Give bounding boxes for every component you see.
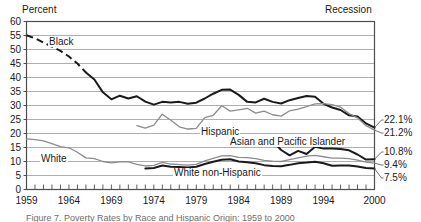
x-tick-label: 1979	[179, 196, 213, 206]
end-value-label: 21.2%	[384, 128, 412, 138]
x-tick-label: 1994	[307, 196, 341, 206]
y-axis-title: Percent	[22, 5, 56, 15]
y-tick-label: 60	[1, 17, 21, 27]
end-value-label: 10.8%	[384, 147, 412, 157]
end-value-label: 9.4%	[384, 160, 407, 170]
figure-caption: Figure 7. Poverty Rates by Race and Hisp…	[26, 213, 295, 222]
series-lines	[27, 35, 375, 168]
x-tick-label: 1974	[137, 196, 171, 206]
y-tick-label: 35	[1, 87, 21, 97]
y-tick-label: 10	[1, 157, 21, 167]
series-label-white: White	[40, 154, 68, 164]
x-axis-ticks	[27, 185, 375, 190]
x-tick-label: 1989	[264, 196, 298, 206]
poverty-rate-chart: Percent Recession 0510152025303540455055…	[0, 0, 421, 222]
y-tick-label: 20	[1, 129, 21, 139]
y-tick-label: 45	[1, 59, 21, 69]
x-tick-label: 1964	[52, 196, 86, 206]
y-tick-label: 50	[1, 45, 21, 55]
gridlines	[27, 36, 375, 176]
x-tick-label: 1969	[94, 196, 128, 206]
y-tick-label: 30	[1, 101, 21, 111]
x-tick-label: 2000	[358, 196, 392, 206]
plot-area	[0, 0, 421, 222]
series-label-white-non-hispanic: White non-Hispanic	[173, 168, 262, 178]
y-tick-label: 15	[1, 143, 21, 153]
y-tick-label: 40	[1, 73, 21, 83]
x-tick-label: 1984	[222, 196, 256, 206]
y-tick-label: 5	[1, 171, 21, 181]
end-value-label: 7.5%	[384, 173, 407, 183]
recession-note: Recession	[325, 5, 372, 15]
end-value-label: 22.1%	[384, 115, 412, 125]
end-label-leader-lines	[375, 120, 384, 178]
y-tick-label: 25	[1, 115, 21, 125]
y-tick-label: 0	[1, 185, 21, 195]
series-label-black: Black	[48, 37, 74, 47]
x-tick-label: 1959	[10, 196, 44, 206]
series-label-asian-pacific-islander: Asian and Pacific Islander	[229, 137, 346, 147]
y-tick-label: 55	[1, 31, 21, 41]
